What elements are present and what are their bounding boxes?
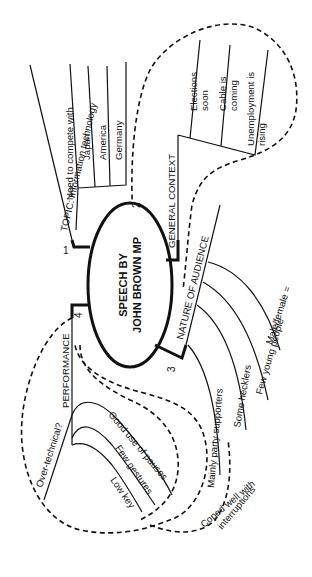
performance-item-over-technical: Over-technical? — [33, 421, 64, 488]
context-item-3-line2: rising — [256, 123, 267, 146]
branch-performance-number: 4 — [73, 312, 84, 318]
branch-context-number: 2 — [131, 202, 142, 208]
compete-item-america: America — [97, 124, 108, 160]
branch-topic-number: 1 — [63, 245, 69, 256]
branch-audience-label: NATURE OF AUDIENCE — [174, 235, 210, 341]
mind-map: SPEECH BY JOHN BROWN MP 1 TOPIC: Informa… — [0, 0, 312, 577]
compete-item-germany: Germany — [113, 120, 124, 160]
branch-audience-number: 3 — [166, 366, 177, 372]
context-item-1-line2: soon — [199, 90, 210, 111]
central-title-line2: JOHN BROWN MP — [131, 237, 143, 333]
performance-gestures-line — [72, 427, 155, 505]
central-title-line1: SPEECH BY — [117, 253, 129, 317]
branch-context-label: GENERAL CONTEXT — [166, 154, 177, 248]
branch-performance-label: PERFORMANCE — [60, 333, 71, 408]
compete-item-japan: Japan — [81, 134, 92, 160]
context-item-2-line1: Cable is — [217, 76, 228, 111]
audience-item-party: Mainly party supporters — [205, 388, 225, 488]
central-node — [88, 203, 172, 367]
context-item-2-line2: coming — [228, 80, 239, 111]
context-item-3-line1: Unemployment is — [245, 72, 256, 146]
need-to-compete-label: Need to compete with — [64, 107, 75, 200]
context-item-1-line1: Elections — [188, 72, 199, 111]
branch-audience-connector — [155, 345, 186, 358]
audience-item-hecklers: Some hecklers — [231, 364, 253, 429]
branch-topic-connector — [72, 240, 90, 247]
